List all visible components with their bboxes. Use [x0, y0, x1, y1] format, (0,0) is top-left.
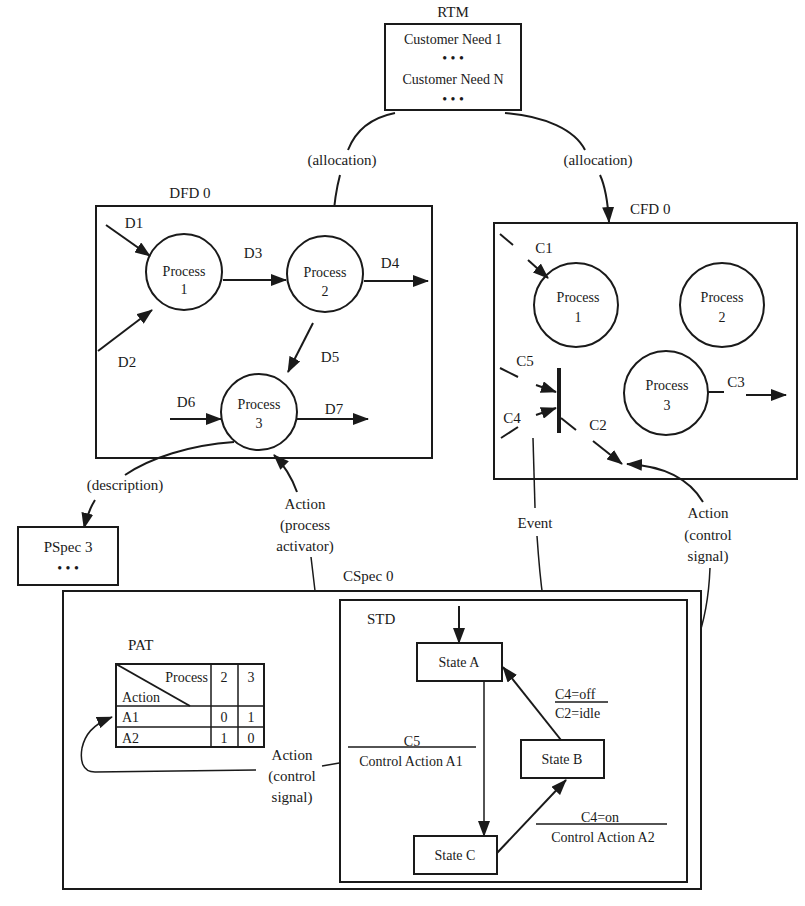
rtm-group: RTM Customer Need 1 • • • Customer Need … — [385, 4, 521, 110]
std-state-b-label: State B — [542, 752, 583, 767]
action-process-activator-line2: (process — [280, 517, 330, 534]
action-process-activator-line3: activator) — [276, 538, 333, 555]
action-control-signal-right-line1: Action — [688, 505, 729, 521]
allocation-right-line-top — [505, 113, 585, 150]
cfd-process-3-num: 3 — [664, 398, 671, 413]
std-state-a-label: State A — [439, 655, 481, 670]
pat-row-a1-action: A1 — [122, 710, 139, 725]
pat-row-a2-val-2: 1 — [221, 731, 228, 746]
pat-header-action: Action — [122, 690, 160, 705]
cfd-process-3-label: Process — [646, 378, 689, 393]
pat-header-process: Process — [165, 670, 208, 685]
cfd-flow-c5-label: C5 — [516, 353, 534, 369]
pat-title: PAT — [128, 637, 153, 653]
rtm-title: RTM — [437, 4, 469, 20]
cfd-box — [494, 223, 797, 479]
allocation-left-label: (allocation) — [307, 152, 376, 169]
cfd-group: CFD 0 Process 1 Process 2 Process 3 C1 C… — [494, 201, 797, 479]
std-transition-2-action: Control Action A1 — [359, 754, 462, 769]
std-transition-3-condition: C4=on — [581, 810, 619, 825]
rtm-line-4: • • • — [442, 92, 464, 107]
dfd-flow-d6-label: D6 — [177, 394, 196, 410]
cfd-flow-c1-label: C1 — [535, 240, 553, 256]
pspec-title: PSpec 3 — [44, 539, 93, 555]
pspec-box[interactable] — [18, 527, 118, 585]
rtm-line-1: Customer Need 1 — [404, 32, 502, 47]
action-control-signal-left-line1: Action — [272, 747, 313, 763]
cfd-process-3[interactable] — [624, 351, 708, 435]
event-label: Event — [518, 515, 554, 531]
cspec-title: CSpec 0 — [343, 568, 393, 584]
pat-row-a2-action: A2 — [122, 731, 139, 746]
description-arrow — [84, 500, 95, 528]
pat-col-3: 3 — [248, 670, 255, 685]
allocation-right-arrow — [600, 175, 609, 222]
pat-row-a1-val-2: 0 — [221, 710, 228, 725]
pat-table: Process Action 2 3 A1 0 1 A2 1 0 — [116, 664, 264, 747]
cfd-title: CFD 0 — [630, 201, 670, 217]
dfd-flow-d3-label: D3 — [244, 245, 262, 261]
allocation-right-label: (allocation) — [563, 152, 632, 169]
pspec-group: PSpec 3 • • • — [18, 527, 118, 585]
pspec-dots: • • • — [57, 561, 79, 576]
pat-row-a1-val-3: 1 — [248, 710, 255, 725]
dfd-process-3-label: Process — [238, 397, 281, 412]
action-control-signal-right-line2: (control — [684, 527, 731, 544]
rtm-line-3: Customer Need N — [402, 72, 503, 87]
action-control-signal-right-line3: signal) — [688, 548, 729, 565]
dfd-process-3-num: 3 — [256, 416, 263, 431]
std-transition-1-action: C2=idle — [555, 706, 600, 721]
action-process-activator-arrow — [274, 455, 297, 492]
description-label: (description) — [87, 477, 164, 494]
dfd-title: DFD 0 — [169, 185, 210, 201]
dfd-process-1-num: 1 — [181, 282, 188, 297]
rtm-line-2: • • • — [442, 51, 464, 66]
dfd-flow-d4-label: D4 — [381, 255, 400, 271]
action-control-signal-left-line3: signal) — [272, 789, 313, 806]
dfd-flow-d2-label: D2 — [118, 354, 136, 370]
dfd-process-2-label: Process — [304, 265, 347, 280]
std-transition-1-condition: C4=off — [555, 687, 596, 702]
cfd-flow-c2-label: C2 — [589, 417, 607, 433]
std-title: STD — [367, 611, 396, 627]
pat-col-2: 2 — [221, 670, 228, 685]
diagram-canvas: RTM Customer Need 1 • • • Customer Need … — [0, 0, 805, 906]
dfd-flow-d7-label: D7 — [325, 401, 344, 417]
pat-row-a2-val-3: 0 — [248, 731, 255, 746]
action-process-activator-line1: Action — [285, 496, 326, 512]
cfd-process-2-num: 2 — [719, 310, 726, 325]
dfd-process-2-num: 2 — [322, 284, 329, 299]
dfd-group: DFD 0 Process 1 Process 2 Process 3 D1 D… — [96, 185, 432, 458]
dfd-flow-d5-label: D5 — [321, 349, 339, 365]
cfd-process-2[interactable] — [680, 263, 764, 347]
cfd-process-2-label: Process — [701, 290, 744, 305]
allocation-left-line-top — [348, 113, 395, 150]
cfd-process-1-num: 1 — [575, 310, 582, 325]
std-state-c-label: State C — [435, 848, 476, 863]
cfd-flow-c4-label: C4 — [503, 410, 521, 426]
dfd-flow-d1-label: D1 — [125, 215, 143, 231]
dfd-process-3[interactable] — [221, 374, 297, 450]
action-control-signal-left-line2: (control — [268, 768, 315, 785]
std-transition-3-action: Control Action A2 — [551, 830, 654, 845]
dfd-process-1-label: Process — [163, 264, 206, 279]
cfd-process-1-label: Process — [557, 290, 600, 305]
cspec-group: CSpec 0 PAT Process Action 2 3 A1 0 1 A2… — [63, 568, 701, 889]
cfd-flow-c3-label: C3 — [727, 374, 745, 390]
